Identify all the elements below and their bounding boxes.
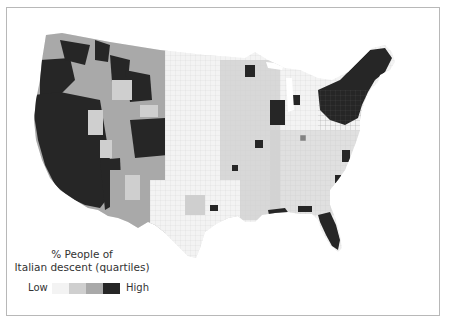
legend-high-label: High — [126, 282, 149, 293]
legend-title-line1: % People of — [12, 248, 152, 261]
legend-swatch-q2 — [69, 283, 86, 294]
legend-low-label: Low — [28, 282, 48, 293]
legend-swatch-q1 — [52, 283, 69, 294]
legend-swatch-q3 — [86, 283, 103, 294]
legend-title-line2: Italian descent (quartiles) — [12, 261, 152, 274]
legend-swatch-q4 — [103, 283, 120, 294]
